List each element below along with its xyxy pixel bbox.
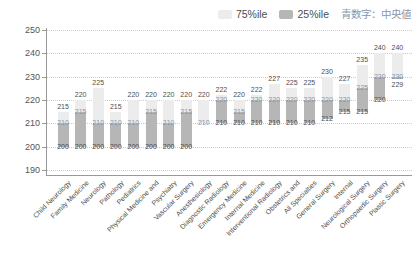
p75-value-neurological-surgery: 235 xyxy=(351,56,373,64)
p25-value-plastic-surgery: 229 xyxy=(386,81,408,89)
gridline-250 xyxy=(46,30,412,31)
bar-25ile-physical-medicine-and xyxy=(146,112,157,147)
median-value-child-neurology: 210 xyxy=(52,119,74,127)
median-value-internal: 220 xyxy=(334,96,356,104)
bar-25ile-vascular-surgery xyxy=(181,112,192,147)
median-value-diagnostic-radiology: 220 xyxy=(210,96,232,104)
y-tick-label-250: 250 xyxy=(12,25,40,35)
plot-area: 250240230220210200190215210200Child Neur… xyxy=(0,0,419,274)
y-tick-label-200: 200 xyxy=(12,142,40,152)
y-tick-label-190: 190 xyxy=(12,165,40,175)
y-tick-label-220: 220 xyxy=(12,95,40,105)
median-value-neurological-surgery: 225 xyxy=(351,84,373,92)
y-tick-label-230: 230 xyxy=(12,72,40,82)
gridline-190 xyxy=(46,170,412,171)
p75-value-neurology: 225 xyxy=(87,79,109,87)
median-value-emergency-medicine: 215 xyxy=(228,108,250,116)
gridline-240 xyxy=(46,53,412,54)
median-value-psychiatry: 210 xyxy=(158,119,180,127)
p75-value-plastic-surgery: 240 xyxy=(386,44,408,52)
percentile-bar-chart: 75%ile 25%ile 青数字：中央値 250240230220210200… xyxy=(0,0,419,274)
y-tick-label-210: 210 xyxy=(12,118,40,128)
p75-value-internal: 227 xyxy=(334,75,356,83)
median-value-anesthesiology: 210 xyxy=(193,119,215,127)
y-axis-line xyxy=(46,28,47,175)
median-value-physical-medicine-and: 215 xyxy=(140,108,162,116)
y-tick-label-240: 240 xyxy=(12,48,40,58)
x-axis-line xyxy=(46,175,412,176)
p75-value-pathology: 215 xyxy=(105,103,127,111)
p75-value-internal-medicine: 222 xyxy=(246,86,268,94)
p25-value-orthopaedic-surgery: 220 xyxy=(369,96,391,104)
median-value-pediatrics: 210 xyxy=(122,119,144,127)
median-value-plastic-surgery: 230 xyxy=(386,73,408,81)
p25-value-general-surgery: 212 xyxy=(316,115,338,123)
p75-value-family-medicine: 220 xyxy=(70,91,92,99)
median-value-vascular-surgery: 215 xyxy=(175,108,197,116)
p75-value-all-specialties: 225 xyxy=(298,79,320,87)
bar-75ile-neurology xyxy=(93,88,104,123)
p25-value-neurological-surgery: 215 xyxy=(351,108,373,116)
p25-value-vascular-surgery: 200 xyxy=(175,143,197,151)
bar-25ile-family-medicine xyxy=(75,112,86,147)
median-value-family-medicine: 215 xyxy=(70,108,92,116)
